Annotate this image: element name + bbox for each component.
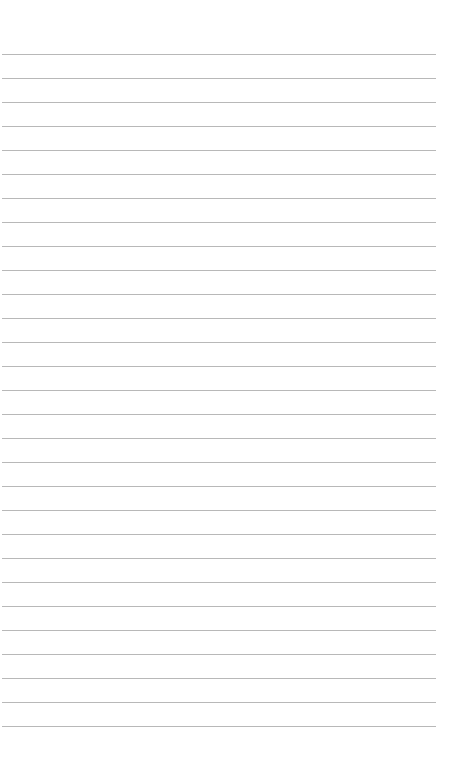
ruled-line [2, 318, 436, 319]
ruled-line [2, 534, 436, 535]
ruled-line [2, 702, 436, 703]
ruled-line [2, 582, 436, 583]
ruled-line [2, 558, 436, 559]
ruled-line [2, 54, 436, 55]
ruled-line [2, 486, 436, 487]
ruled-line [2, 462, 436, 463]
ruled-line [2, 366, 436, 367]
ruled-line [2, 510, 436, 511]
ruled-line [2, 78, 436, 79]
ruled-line [2, 294, 436, 295]
ruled-line [2, 246, 436, 247]
ruled-line [2, 150, 436, 151]
lined-paper-page [0, 0, 459, 776]
ruled-line [2, 198, 436, 199]
ruled-line [2, 174, 436, 175]
ruled-line [2, 654, 436, 655]
ruled-line [2, 678, 436, 679]
ruled-line [2, 606, 436, 607]
ruled-line [2, 342, 436, 343]
ruled-line [2, 102, 436, 103]
ruled-line [2, 222, 436, 223]
ruled-line [2, 726, 436, 727]
ruled-line [2, 630, 436, 631]
ruled-line [2, 390, 436, 391]
ruled-line [2, 414, 436, 415]
ruled-line [2, 126, 436, 127]
ruled-line [2, 438, 436, 439]
ruled-line [2, 270, 436, 271]
